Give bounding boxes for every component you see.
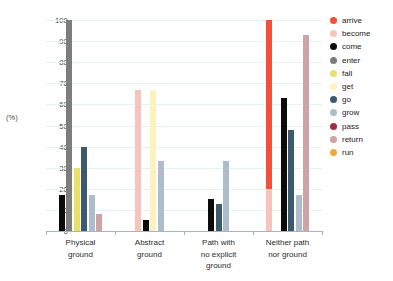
x-label-line: Neither path [251, 237, 325, 249]
legend-label: enter [342, 56, 360, 65]
bar-fall[interactable] [74, 168, 80, 231]
bar-go[interactable] [216, 204, 222, 231]
x-label-line: Physical [44, 237, 118, 249]
bar-come[interactable] [208, 199, 214, 231]
x-label-line: no explicit [182, 249, 256, 261]
bar-group [253, 20, 322, 231]
bar-group [46, 20, 115, 231]
x-axis-tick [46, 231, 47, 235]
legend-label: go [342, 95, 351, 104]
bar-become-segment[interactable] [266, 189, 272, 231]
bar-return[interactable] [303, 35, 309, 231]
legend-item-arrive[interactable]: arrive [330, 14, 390, 27]
legend-item-become[interactable]: become [330, 27, 390, 40]
bar-become[interactable] [135, 90, 141, 231]
bar-enter[interactable] [66, 20, 72, 231]
x-label-line: ground [113, 249, 187, 261]
legend-item-pass[interactable]: pass [330, 120, 390, 133]
legend-label: come [342, 42, 362, 51]
x-label-line: ground [182, 260, 256, 272]
bar-arrive[interactable] [266, 20, 272, 231]
bar-return[interactable] [96, 214, 102, 231]
legend-item-grow[interactable]: grow [330, 106, 390, 119]
legend-label: become [342, 29, 370, 38]
legend-label: run [342, 148, 354, 157]
x-axis-tick [184, 231, 185, 235]
legend-item-get[interactable]: get [330, 80, 390, 93]
x-label-line: Abstract [113, 237, 187, 249]
legend-item-fall[interactable]: fall [330, 67, 390, 80]
legend-item-enter[interactable]: enter [330, 54, 390, 67]
bar-group [184, 20, 253, 231]
x-axis-tick [322, 231, 323, 235]
bar-come[interactable] [59, 195, 65, 231]
x-label-line: ground [44, 249, 118, 261]
bar-grow[interactable] [223, 161, 229, 231]
legend-swatch-icon [330, 57, 337, 64]
bar-come[interactable] [281, 98, 287, 231]
legend-swatch-icon [330, 123, 337, 130]
x-axis-label-2: Abstractground [113, 237, 187, 260]
bar-grow[interactable] [89, 195, 95, 231]
bar-go[interactable] [81, 147, 87, 231]
legend-label: fall [342, 69, 352, 78]
legend-label: pass [342, 122, 359, 131]
legend-item-run[interactable]: run [330, 146, 390, 159]
plot-area [46, 20, 322, 231]
bar-grow[interactable] [296, 195, 302, 231]
bar-go[interactable] [288, 130, 294, 231]
legend-label: grow [342, 108, 359, 117]
legend-swatch-icon [330, 96, 337, 103]
x-axis-label-1: Physicalground [44, 237, 118, 260]
legend: arrivebecomecomeenterfallgetgogrowpassre… [330, 14, 390, 159]
legend-swatch-icon [330, 149, 337, 156]
legend-item-come[interactable]: come [330, 40, 390, 53]
legend-item-return[interactable]: return [330, 133, 390, 146]
bar-get[interactable] [150, 90, 156, 231]
bar-group [115, 20, 184, 231]
x-axis-tick [115, 231, 116, 235]
legend-swatch-icon [330, 17, 337, 24]
legend-label: arrive [342, 16, 362, 25]
legend-swatch-icon [330, 70, 337, 77]
legend-label: get [342, 82, 353, 91]
y-axis-title: (%) [6, 113, 18, 122]
legend-item-go[interactable]: go [330, 93, 390, 106]
legend-swatch-icon [330, 43, 337, 50]
x-label-line: Path with [182, 237, 256, 249]
legend-swatch-icon [330, 30, 337, 37]
legend-swatch-icon [330, 109, 337, 116]
bar-chart: (%) 0102030405060708090100 Physicalgroun… [0, 0, 393, 281]
x-axis-tick [253, 231, 254, 235]
x-axis-label-4: Neither pathnor ground [251, 237, 325, 260]
x-label-line: nor ground [251, 249, 325, 261]
legend-label: return [342, 135, 363, 144]
legend-swatch-icon [330, 136, 337, 143]
x-axis-label-3: Path withno explicitground [182, 237, 256, 272]
legend-swatch-icon [330, 83, 337, 90]
bar-grow[interactable] [158, 161, 164, 231]
bar-come[interactable] [143, 220, 149, 231]
